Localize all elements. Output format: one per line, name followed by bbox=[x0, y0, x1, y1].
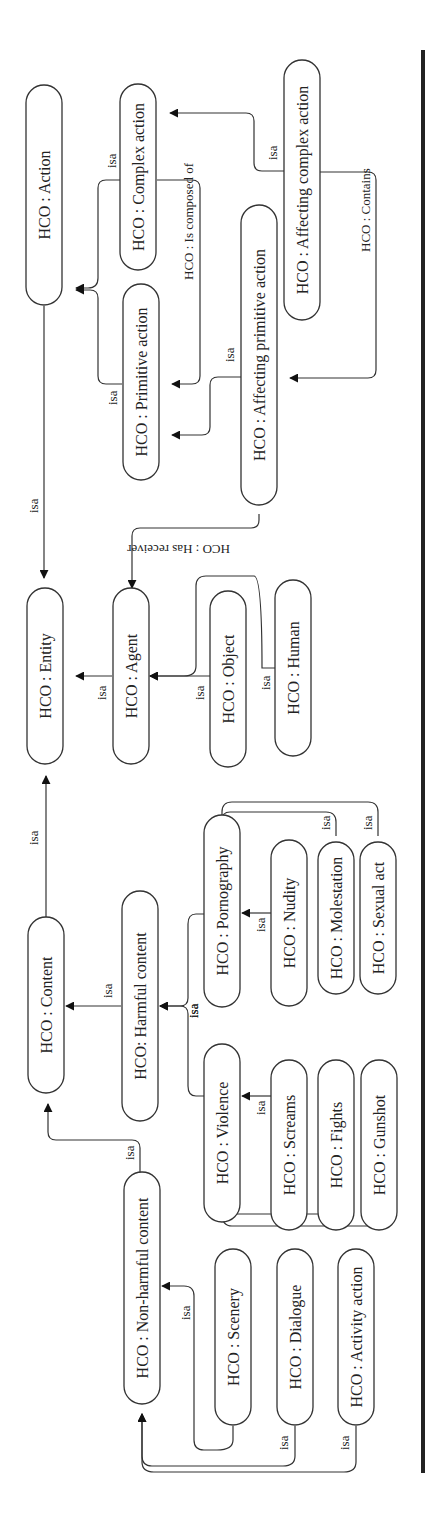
node-screams: HCO : Screams bbox=[271, 1060, 307, 1230]
edge-label: isa bbox=[192, 685, 207, 700]
edge-label: isa bbox=[100, 983, 115, 998]
node-activity-action: HCO : Activity action bbox=[338, 1249, 374, 1425]
edge-dialogue-nonharmful: isa bbox=[142, 1414, 295, 1466]
nodes-layer: HCO : EntityHCO : ActionHCO : ContentHCO… bbox=[26, 60, 397, 1425]
node-label: HCO : Content bbox=[38, 956, 55, 1053]
edge-label: isa bbox=[276, 1435, 291, 1450]
edge-label: HCO : Is composed of bbox=[181, 162, 196, 280]
edge-arrow-icon bbox=[222, 802, 378, 836]
edge-label: isa bbox=[318, 815, 333, 830]
edge-label: isa bbox=[26, 830, 41, 845]
edge-arrow-icon bbox=[76, 180, 120, 288]
edge-label: isa bbox=[105, 390, 120, 405]
edge-label: HCO : Contains bbox=[358, 168, 373, 252]
edge-arrow-icon bbox=[172, 377, 241, 435]
edge-label: isa bbox=[186, 1003, 201, 1018]
node-molestation: HCO : Molestation bbox=[318, 842, 354, 994]
edge-arrow-icon bbox=[142, 1414, 295, 1466]
node-fights: HCO : Fights bbox=[318, 1060, 354, 1230]
node-gunshot: HCO : Gunshot bbox=[361, 1060, 397, 1230]
node-dialogue: HCO : Dialogue bbox=[277, 1249, 313, 1425]
node-sexual-act: HCO : Sexual act bbox=[360, 842, 396, 994]
node-label: HCO : Object bbox=[220, 634, 238, 723]
node-label: HCO : Pornography bbox=[214, 847, 232, 976]
edge-nudity-pornography: isa bbox=[242, 913, 271, 932]
node-harmful-content: HCO: Harmful content bbox=[122, 891, 158, 1121]
edge-object-agent: isa bbox=[150, 676, 210, 700]
node-label: HCO : Violence bbox=[214, 1082, 231, 1185]
node-violence: HCO : Violence bbox=[204, 1044, 240, 1222]
edge-arrow-icon bbox=[160, 1006, 204, 1096]
edge-label: isa bbox=[258, 675, 273, 690]
node-affecting-complex-action: HCO : Affecting complex action bbox=[284, 60, 320, 320]
edge-arrow-icon bbox=[142, 1414, 356, 1472]
edge-label: isa bbox=[222, 347, 237, 362]
node-entity: HCO : Entity bbox=[27, 588, 63, 764]
edge-agent-entity: isa bbox=[76, 676, 112, 700]
node-content: HCO : Content bbox=[28, 917, 64, 1093]
node-label: HCO : Molestation bbox=[328, 857, 345, 980]
node-label: HCO : Nudity bbox=[281, 878, 299, 969]
node-label: HCO : Gunshot bbox=[371, 1094, 388, 1195]
edge-label: HCO : Has receiver bbox=[126, 542, 230, 557]
node-action: HCO : Action bbox=[26, 85, 62, 305]
edge-arrow-icon bbox=[160, 914, 204, 1006]
node-label: HCO : Complex action bbox=[130, 103, 148, 251]
edge-label: isa bbox=[360, 815, 375, 830]
edge-has-receiver: HCO : Has receiver bbox=[126, 514, 259, 588]
edge-arrow-icon bbox=[170, 113, 285, 171]
node-label: HCO : Primitive action bbox=[133, 308, 150, 457]
edge-is-composed-of: HCO : Is composed of bbox=[157, 162, 200, 384]
edge-affecting-primitive-isa: isa bbox=[172, 347, 241, 435]
node-label: HCO : Dialogue bbox=[287, 1285, 305, 1390]
node-pornography: HCO : Pornography bbox=[204, 815, 240, 1007]
edges-layer: isaisaisaisaisaHCO : Is composed ofisais… bbox=[26, 113, 380, 1472]
edge-label: isa bbox=[337, 1435, 352, 1450]
edge-action-entity: isa bbox=[26, 306, 44, 578]
edge-label: isa bbox=[94, 685, 109, 700]
edge-affecting-complex-isa: isa bbox=[170, 113, 285, 171]
node-agent: HCO : Agent bbox=[113, 588, 149, 764]
edge-complex-action: isa bbox=[76, 153, 120, 288]
node-label: HCO : Affecting complex action bbox=[294, 86, 312, 295]
node-label: HCO : Action bbox=[36, 151, 53, 240]
edge-primitive-action: isa bbox=[76, 290, 122, 405]
node-label: HCO: Harmful content bbox=[132, 932, 149, 1080]
node-object: HCO : Object bbox=[210, 591, 246, 767]
edge-pornography-harmful: isa bbox=[160, 914, 204, 1018]
node-affecting-primitive-action: HCO : Affecting primitive action bbox=[241, 205, 277, 505]
edge-label: isa bbox=[253, 917, 268, 932]
node-label: HCO : Screams bbox=[281, 1095, 298, 1195]
edge-harmful-content: isa bbox=[66, 983, 121, 1006]
node-label: HCO : Entity bbox=[37, 633, 55, 718]
node-scenery: HCO : Scenery bbox=[215, 1249, 251, 1425]
node-label: HCO : Sexual act bbox=[370, 861, 387, 974]
node-human: HCO : Human bbox=[275, 580, 311, 756]
node-nudity: HCO : Nudity bbox=[271, 840, 307, 1006]
node-label: HCO : Scenery bbox=[225, 1288, 243, 1386]
edge-label: isa bbox=[178, 1305, 193, 1320]
edge-label: isa bbox=[265, 145, 280, 160]
edge-label: isa bbox=[104, 153, 119, 168]
edge-label: isa bbox=[253, 1100, 268, 1115]
node-label: HCO : Fights bbox=[328, 1102, 346, 1188]
edge-arrow-icon bbox=[76, 290, 122, 384]
node-label: HCO : Non-harmful content bbox=[134, 1197, 151, 1378]
edge-activity-nonharmful: isa bbox=[142, 1414, 356, 1472]
node-label: HCO : Affecting primitive action bbox=[251, 249, 269, 461]
node-label: HCO : Activity action bbox=[348, 1267, 366, 1408]
ontology-diagram: isaisaisaisaisaHCO : Is composed ofisais… bbox=[0, 0, 432, 1529]
edge-violence-harmful: isa bbox=[160, 1003, 204, 1096]
edge-label: isa bbox=[26, 498, 41, 513]
edge-content-entity: isa bbox=[26, 776, 46, 917]
node-primitive-action: HCO : Primitive action bbox=[123, 284, 159, 480]
node-label: HCO : Agent bbox=[123, 633, 141, 718]
node-label: HCO : Human bbox=[285, 621, 302, 714]
edge-sexual-act-pornography: isa bbox=[222, 802, 378, 836]
node-non-harmful-content: HCO : Non-harmful content bbox=[124, 1172, 160, 1404]
edge-label: isa bbox=[122, 1145, 137, 1160]
edge-screams-violence: isa bbox=[242, 1096, 271, 1115]
node-complex-action: HCO : Complex action bbox=[120, 84, 156, 270]
